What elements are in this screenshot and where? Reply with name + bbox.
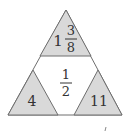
center-numerator: 1 — [62, 67, 70, 82]
top-whole: 1 — [53, 32, 63, 50]
triangle-diagram: 1 3 8 1 2 4 11 — [0, 0, 126, 136]
center-denominator: 2 — [62, 84, 70, 99]
top-denominator: 8 — [67, 40, 75, 55]
bottom-right-value: 11 — [90, 93, 108, 109]
top-triangle — [40, 10, 91, 56]
stray-mark — [105, 127, 106, 131]
bottom-left-value: 4 — [28, 93, 37, 109]
top-numerator: 3 — [67, 23, 75, 38]
